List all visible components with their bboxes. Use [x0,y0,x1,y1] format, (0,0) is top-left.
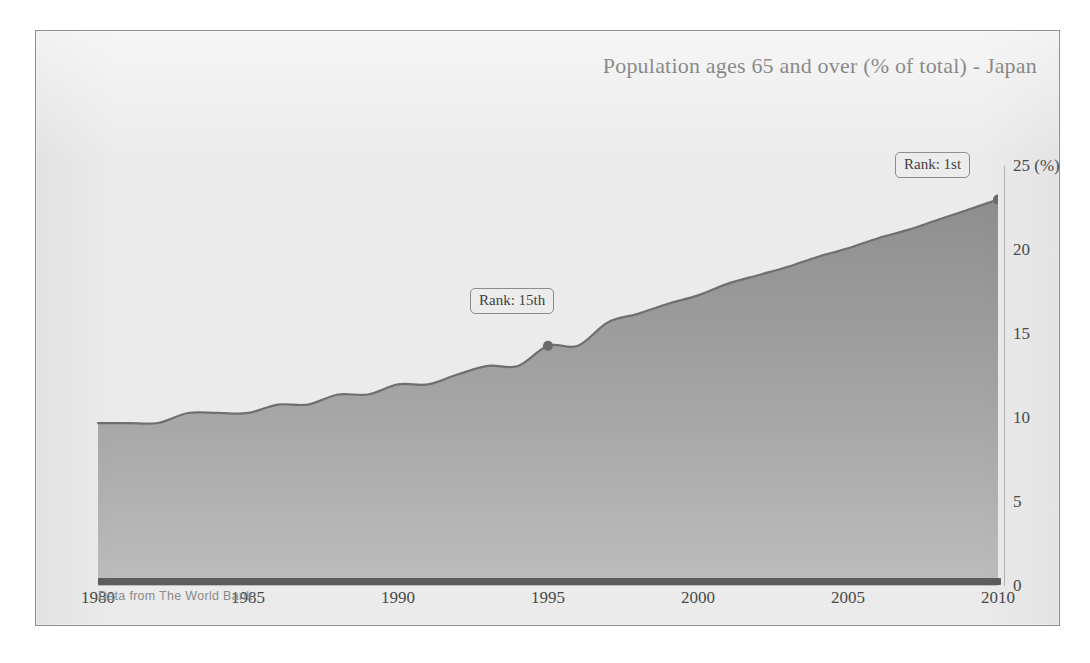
x-axis [98,578,1001,585]
x-axis-tick-1990: 1990 [381,588,415,608]
x-axis-tick-2000: 2000 [681,588,715,608]
data-point-marker [543,341,553,351]
y-axis-tick-25: 25 (%) [1013,156,1060,176]
data-source-note: Data from The World Bank [98,589,253,603]
plot-area [63,111,998,611]
y-axis-tick-10: 10 [1013,408,1030,428]
x-axis-tick-2005: 2005 [831,588,865,608]
screenshot-root: Population ages 65 and over (% of total)… [0,0,1090,663]
x-axis-tick-2010: 2010 [981,588,1015,608]
y-axis-tick-0: 0 [1013,576,1022,596]
y-axis-tick-5: 5 [1013,492,1022,512]
chart-card: Population ages 65 and over (% of total)… [35,30,1060,626]
y-axis [1004,166,1005,586]
y-axis-tick-20: 20 [1013,240,1030,260]
area-fill [98,200,998,586]
annotation-rank-15th: Rank: 15th [470,288,554,314]
y-axis-tick-15: 15 [1013,324,1030,344]
page-title: Population ages 65 and over (% of total)… [603,53,1037,79]
x-axis-tick-1995: 1995 [531,588,565,608]
area-chart-svg [63,111,998,611]
annotation-rank-1st: Rank: 1st [895,152,970,178]
